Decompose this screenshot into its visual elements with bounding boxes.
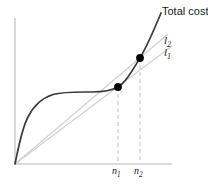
- n1-tick-label: n1: [112, 166, 121, 179]
- cost-curve-figure: Total cost l2 l1 n1 n2: [0, 0, 208, 185]
- n2-tick-label: n2: [134, 166, 143, 179]
- l1-label: l1: [164, 47, 171, 61]
- l1-label-subscript: 1: [167, 52, 171, 61]
- chart-canvas: [0, 0, 208, 185]
- point-n1-marker: [114, 83, 122, 91]
- ray-l1: [15, 46, 172, 164]
- ray-l2: [15, 34, 168, 164]
- total-cost-label: Total cost: [162, 6, 208, 17]
- n2-tick-subscript: 2: [139, 171, 143, 179]
- n1-tick-subscript: 1: [117, 171, 121, 179]
- total-cost-curve: [15, 13, 161, 164]
- point-n2-marker: [136, 54, 144, 62]
